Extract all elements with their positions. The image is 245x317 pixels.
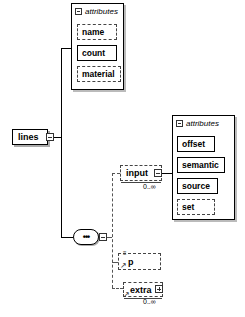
occurrence-input: 0..∞: [143, 183, 156, 190]
element-lines[interactable]: lines: [12, 129, 48, 145]
connector-root-to-trunk: [54, 137, 61, 138]
element-label: input: [126, 168, 148, 178]
attribute-offset[interactable]: offset: [177, 136, 215, 152]
attribute-set[interactable]: set: [177, 199, 215, 215]
collapse-toggle-input[interactable]: [154, 169, 162, 177]
connector-input-to-attributes: [162, 173, 172, 174]
reference-arrow-icon: ↗: [120, 261, 127, 270]
occurrence-extra: 0..∞: [143, 298, 156, 305]
root-attributes-group: attributes name count material: [71, 3, 124, 90]
element-label: p: [128, 257, 134, 267]
attribute-source[interactable]: source: [177, 178, 218, 194]
attribute-label: material: [82, 69, 115, 79]
collapse-icon[interactable]: [176, 120, 183, 127]
attribute-name[interactable]: name: [77, 24, 117, 40]
attribute-semantic[interactable]: semantic: [177, 157, 225, 173]
attribute-label: count: [82, 48, 105, 58]
connector-to-attributes: [61, 48, 71, 49]
collapse-icon[interactable]: [75, 8, 82, 15]
element-label: lines: [18, 132, 39, 142]
connector-branch: [112, 173, 113, 288]
attributes-header[interactable]: attributes: [176, 119, 219, 128]
reference-arrow-icon: ↗: [123, 290, 130, 299]
attribute-label: source: [182, 181, 210, 191]
sequence-compositor[interactable]: •••: [73, 229, 99, 245]
connector-trunk: [61, 48, 62, 238]
connector-to-input: [112, 173, 120, 174]
expand-toggle-extra[interactable]: [155, 285, 163, 293]
connector-to-sequence: [61, 237, 73, 238]
attribute-label: set: [182, 202, 194, 212]
input-attributes-group: attributes offset semantic source set: [172, 115, 235, 220]
attributes-header[interactable]: attributes: [75, 7, 118, 16]
attribute-count[interactable]: count: [77, 45, 117, 61]
sequence-icon: •••: [83, 233, 89, 242]
mixed-content-icon: ≡: [123, 250, 127, 256]
attributes-header-label: attributes: [85, 7, 118, 16]
attribute-label: name: [82, 27, 104, 37]
collapse-toggle-sequence[interactable]: [99, 233, 107, 241]
connector-to-extra: [112, 288, 123, 289]
attributes-header-label: attributes: [186, 119, 219, 128]
collapse-toggle-lines[interactable]: [46, 133, 54, 141]
attribute-label: offset: [182, 139, 205, 149]
attribute-material[interactable]: material: [77, 66, 121, 82]
element-label: extra: [130, 285, 152, 295]
attribute-label: semantic: [182, 160, 219, 170]
